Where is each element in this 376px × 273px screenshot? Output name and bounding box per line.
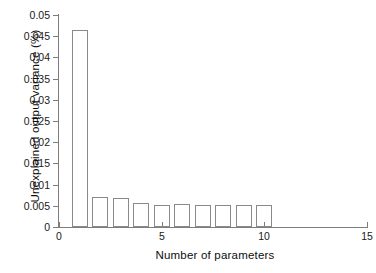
y-tick-mark (53, 163, 58, 164)
y-tick-mark (53, 121, 58, 122)
bar (92, 197, 108, 227)
y-tick-mark (53, 100, 58, 101)
x-axis-label-text: Number of parameters (155, 249, 274, 261)
y-tick-mark (53, 227, 58, 228)
bar (72, 30, 88, 227)
y-tick-mark (53, 185, 58, 186)
x-axis-line (58, 227, 368, 228)
x-axis-label: Number of parameters (0, 249, 376, 261)
y-tick-mark (53, 142, 58, 143)
bar (113, 198, 129, 227)
y-tick-mark (53, 79, 58, 80)
x-tick-label: 10 (258, 231, 270, 242)
x-tick-label: 15 (361, 231, 373, 242)
x-tick-mark (367, 222, 368, 227)
x-tick-label: 0 (56, 231, 62, 242)
bar (256, 205, 272, 227)
bar (236, 205, 252, 227)
bar (154, 205, 170, 227)
bar (215, 205, 231, 227)
y-axis-line (58, 14, 59, 228)
bar (195, 205, 211, 227)
chart-figure: 00.0050.010.0150.020.0250.030.0350.040.0… (0, 0, 376, 273)
x-tick-mark (59, 222, 60, 227)
y-tick-label: 0 (44, 222, 50, 233)
bar (133, 203, 149, 227)
y-axis-label: Unexplained output variance (%) (29, 1, 41, 231)
y-tick-mark (53, 15, 58, 16)
y-tick-mark (53, 57, 58, 58)
bar (174, 204, 190, 227)
plot-area: 00.0050.010.0150.020.0250.030.0350.040.0… (0, 0, 376, 273)
y-tick-mark (53, 206, 58, 207)
y-tick-mark (53, 36, 58, 37)
x-tick-label: 5 (159, 231, 165, 242)
